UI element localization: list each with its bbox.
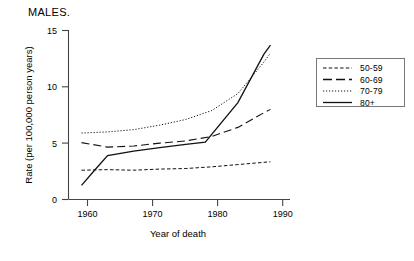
legend-label-60-69: 60-69 <box>360 75 383 85</box>
series-group <box>82 45 271 185</box>
x-axis-ticks <box>88 200 283 207</box>
chart-container: MALES. 15 10 5 0 1960 1970 1980 1990 Yea… <box>0 0 414 261</box>
y-axis-ticks <box>62 31 69 200</box>
y-tick-label-10: 10 <box>47 82 57 92</box>
x-tick-label-1990: 1990 <box>273 209 293 219</box>
legend: 50-59 60-69 70-79 80+ <box>317 59 405 108</box>
y-tick-label-0: 0 <box>52 195 57 205</box>
x-tick-label-1970: 1970 <box>143 209 163 219</box>
x-tick-label-1960: 1960 <box>77 209 97 219</box>
series-line-60-69 <box>82 109 271 147</box>
legend-label-80plus: 80+ <box>360 98 375 108</box>
y-axis-title: Rate (per 100,000 person years) <box>23 46 34 183</box>
y-tick-label-15: 15 <box>47 26 57 36</box>
y-tick-label-5: 5 <box>52 139 57 149</box>
chart-svg: 15 10 5 0 1960 1970 1980 1990 Year of de… <box>0 0 414 261</box>
series-line-70-79 <box>82 53 271 133</box>
legend-label-70-79: 70-79 <box>360 86 383 96</box>
x-tick-label-1980: 1980 <box>208 209 228 219</box>
series-line-50-59 <box>82 162 271 170</box>
legend-label-50-59: 50-59 <box>360 63 383 73</box>
x-axis-title: Year of death <box>150 228 206 239</box>
